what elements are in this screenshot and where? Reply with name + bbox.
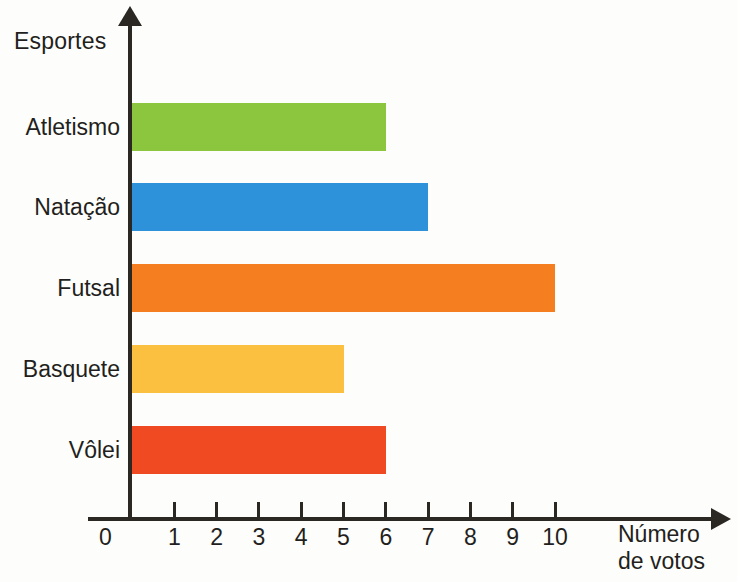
x-tick-label-8: 8 (464, 524, 477, 551)
x-tick-label-4: 4 (295, 524, 308, 551)
x-axis-tick-1 (173, 502, 176, 519)
x-tick-label-1: 1 (168, 524, 181, 551)
x-axis-tick-4 (300, 502, 303, 519)
x-axis-tick-8 (469, 502, 472, 519)
category-label-atletismo: Atletismo (25, 114, 120, 141)
x-axis-tick-7 (427, 502, 430, 519)
x-tick-label-3: 3 (252, 524, 265, 551)
category-label-vôlei: Vôlei (69, 437, 120, 464)
bar-natação (132, 183, 428, 231)
x-tick-label-0: 0 (99, 524, 112, 551)
x-tick-label-9: 9 (506, 524, 519, 551)
x-tick-label-6: 6 (379, 524, 392, 551)
bar-basquete (132, 345, 344, 393)
y-axis-title: Esportes (14, 28, 106, 55)
x-tick-label-2: 2 (210, 524, 223, 551)
x-axis-tick-2 (215, 502, 218, 519)
category-label-natação: Natação (34, 194, 120, 221)
x-axis-tick-6 (384, 502, 387, 519)
bar-chart: Esportes Número de votos 0 12345678910 A… (0, 0, 737, 582)
x-axis-title-line-2: de votos (618, 548, 737, 575)
bar-vôlei (132, 426, 386, 474)
category-label-futsal: Futsal (57, 275, 120, 302)
x-tick-label-7: 7 (422, 524, 435, 551)
x-tick-label-5: 5 (337, 524, 350, 551)
y-axis-arrow-icon (118, 6, 142, 26)
x-axis-tick-3 (257, 502, 260, 519)
x-axis-tick-5 (342, 502, 345, 519)
x-axis-title-line-1: Número (618, 521, 737, 548)
x-axis-title: Número de votos (618, 521, 737, 575)
bar-futsal (132, 264, 555, 312)
category-label-basquete: Basquete (23, 356, 120, 383)
x-axis-tick-9 (511, 502, 514, 519)
bar-atletismo (132, 103, 386, 151)
x-tick-label-10: 10 (542, 524, 568, 551)
x-axis-tick-10 (554, 502, 557, 519)
